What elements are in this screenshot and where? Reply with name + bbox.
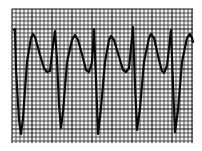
ecg-strip xyxy=(0,0,202,151)
